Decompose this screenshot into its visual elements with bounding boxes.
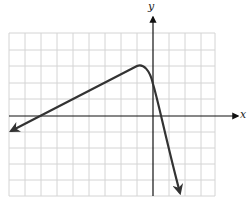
y-axis-label: y [148,1,154,12]
axes [9,17,238,196]
grid [9,33,215,196]
function-curve [11,65,180,193]
x-axis-label: x [240,109,246,120]
graph-plot [0,0,250,204]
